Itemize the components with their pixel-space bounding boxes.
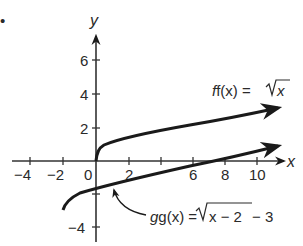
svg-text:0: 0 <box>84 166 92 183</box>
y-tick-labels: 6 4 2 −4 <box>68 52 88 236</box>
g-pointer-arrow <box>114 190 146 215</box>
y-axis-label: y <box>89 12 99 29</box>
svg-text:x − 2: x − 2 <box>209 208 242 225</box>
svg-text:x: x <box>276 82 285 99</box>
x-axis-label: x <box>286 153 296 170</box>
svg-text:− 3: − 3 <box>252 208 273 225</box>
svg-text:−4: −4 <box>68 219 85 236</box>
svg-text:10: 10 <box>249 166 266 183</box>
svg-text:−2: −2 <box>47 166 64 183</box>
x-tick-labels: −4 −2 0 2 6 8 10 <box>14 166 266 183</box>
svg-text:ff(x) =: ff(x) = <box>212 82 251 99</box>
problem-bullet: • <box>0 12 5 29</box>
svg-text:gg(x) =: gg(x) = <box>150 208 197 225</box>
svg-text:2: 2 <box>80 120 88 137</box>
f-label: ff(x) = x <box>212 80 290 99</box>
g-label: gg(x) = x − 2 − 3 <box>150 203 273 225</box>
graph-canvas: • x y −4 −2 0 2 6 8 10 6 4 2 −4 <box>0 0 303 246</box>
svg-text:8: 8 <box>221 166 229 183</box>
svg-text:4: 4 <box>80 86 88 103</box>
svg-text:6: 6 <box>80 52 88 69</box>
svg-text:6: 6 <box>189 166 197 183</box>
svg-text:−4: −4 <box>14 166 31 183</box>
